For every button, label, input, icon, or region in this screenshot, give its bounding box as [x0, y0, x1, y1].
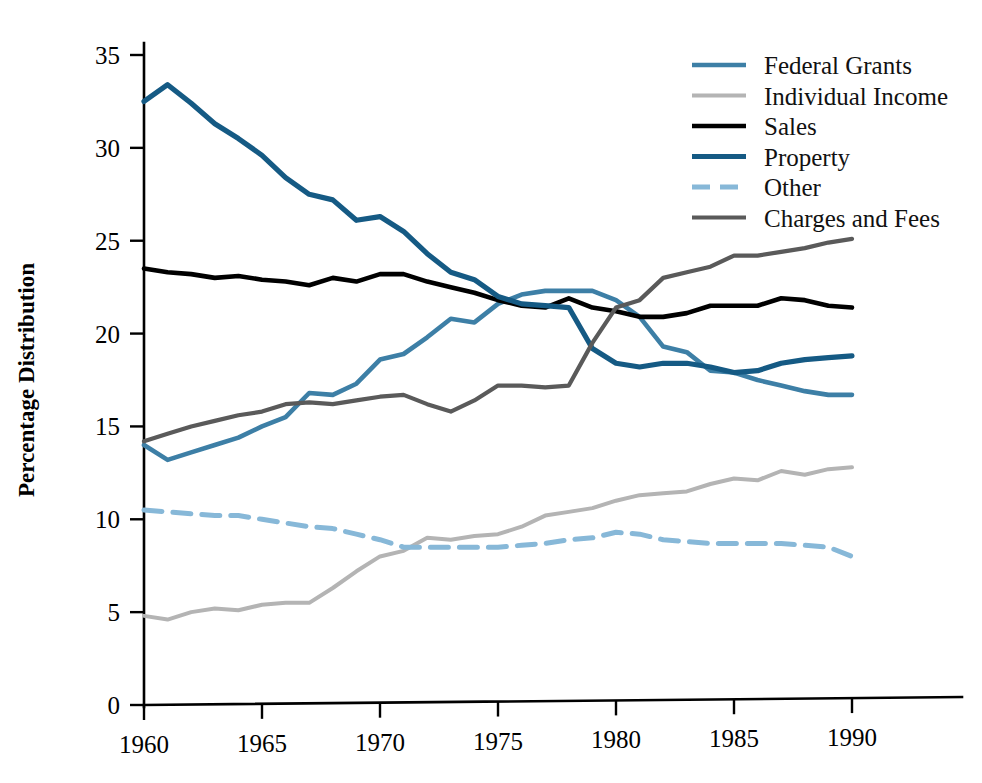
- legend-item-individual-income[interactable]: Individual Income: [692, 83, 948, 110]
- series-line-federal-grants: [144, 291, 852, 460]
- x-tick-label: 1985: [709, 725, 759, 752]
- legend-label: Individual Income: [764, 83, 948, 110]
- legend-label: Other: [764, 174, 822, 201]
- y-axis-title: Percentage Distribution: [14, 263, 39, 497]
- series-line-charges-and-fees: [144, 239, 852, 441]
- legend-item-charges-and-fees[interactable]: Charges and Fees: [692, 205, 940, 232]
- series-line-sales: [144, 269, 852, 317]
- legend-label: Charges and Fees: [764, 205, 940, 232]
- x-tick-label: 1975: [473, 728, 523, 755]
- x-axis-line: [144, 697, 962, 705]
- y-tick-label: 15: [95, 413, 120, 440]
- legend-label: Federal Grants: [764, 52, 912, 79]
- x-tick-label: 1965: [237, 730, 287, 757]
- y-tick-label: 5: [108, 599, 121, 626]
- axis-title: Percentage Distribution: [14, 263, 39, 497]
- x-tick-label: 1980: [591, 726, 641, 753]
- legend-label: Property: [764, 144, 851, 171]
- legend-item-federal-grants[interactable]: Federal Grants: [692, 52, 912, 79]
- legend-item-property[interactable]: Property: [692, 144, 851, 171]
- y-tick-label: 35: [95, 42, 120, 69]
- chart-legend: Federal GrantsIndividual IncomeSalesProp…: [692, 52, 948, 232]
- y-tick-label: 25: [95, 228, 120, 255]
- legend-item-sales[interactable]: Sales: [692, 113, 817, 140]
- series-lines: [144, 85, 852, 620]
- legend-item-other[interactable]: Other: [692, 174, 822, 201]
- y-tick-label: 0: [108, 692, 121, 719]
- y-tick-label: 10: [95, 506, 120, 533]
- y-tick-label: 20: [95, 321, 120, 348]
- tick-labels: 0510152025303519601965197019751980198519…: [95, 42, 877, 758]
- chart-container: 0510152025303519601965197019751980198519…: [0, 0, 982, 783]
- x-tick-label: 1960: [119, 731, 169, 758]
- legend-label: Sales: [764, 113, 817, 140]
- y-tick-label: 30: [95, 135, 120, 162]
- x-tick-label: 1970: [355, 729, 405, 756]
- line-chart: 0510152025303519601965197019751980198519…: [0, 0, 982, 783]
- x-tick-label: 1990: [827, 724, 877, 751]
